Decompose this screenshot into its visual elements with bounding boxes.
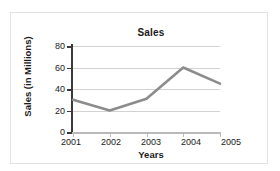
- x-axis-label-2002: 2002: [91, 137, 131, 147]
- y-tick-80: [67, 46, 72, 48]
- y-axis-label-20: 20: [37, 107, 65, 116]
- x-axis-labels: 2001 2002 2003 2004 2005: [51, 137, 251, 147]
- plot-area: 80 60 40 20 0: [73, 46, 220, 132]
- x-axis-label-2001: 2001: [51, 137, 91, 147]
- chart-title: Sales: [71, 27, 231, 38]
- x-axis-title: Years: [71, 149, 231, 160]
- y-axis-label-0: 0: [37, 128, 65, 137]
- y-tick-0: [67, 132, 72, 134]
- y-tick-20: [67, 111, 72, 113]
- x-axis-label-2005: 2005: [211, 137, 251, 147]
- y-tick-60: [67, 68, 72, 70]
- y-axis-title: Sales (in Millions): [22, 22, 33, 132]
- chart-card: Sales Sales (in Millions) 80 60 40 20 0 …: [10, 12, 268, 164]
- series-line-sales: [73, 46, 220, 132]
- y-tick-40: [67, 89, 72, 91]
- y-axis-label-60: 60: [37, 64, 65, 73]
- x-axis-line: [71, 132, 220, 134]
- y-axis-label-80: 80: [37, 42, 65, 51]
- x-axis-label-2004: 2004: [171, 137, 211, 147]
- y-axis-label-40: 40: [37, 85, 65, 94]
- x-axis-label-2003: 2003: [131, 137, 171, 147]
